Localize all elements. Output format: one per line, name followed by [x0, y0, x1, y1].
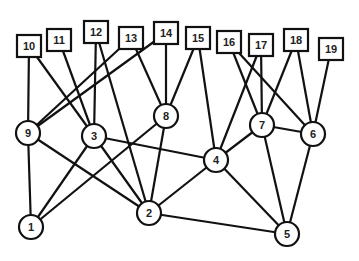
edge-3-1 — [31, 136, 94, 227]
node-label: 10 — [23, 40, 35, 52]
circle-node-5: 5 — [275, 222, 299, 246]
node-label: 13 — [125, 32, 137, 44]
edge-13-9 — [28, 38, 131, 133]
edge-3-4 — [94, 136, 216, 160]
edge-2-5 — [149, 213, 287, 234]
node-label: 11 — [53, 34, 65, 46]
square-node-15: 15 — [186, 27, 210, 49]
circle-node-8: 8 — [154, 104, 178, 128]
node-label: 7 — [259, 119, 265, 131]
square-node-18: 18 — [284, 29, 308, 51]
node-label: 16 — [223, 36, 235, 48]
node-label: 9 — [25, 127, 31, 139]
node-label: 12 — [90, 26, 102, 38]
square-node-10: 10 — [17, 35, 41, 57]
graph-diagram: 10111213141516171819938764125 — [0, 0, 359, 261]
node-label: 5 — [284, 228, 290, 240]
edge-4-5 — [216, 160, 287, 234]
square-node-13: 13 — [119, 27, 143, 49]
edge-6-5 — [287, 134, 313, 234]
square-node-11: 11 — [47, 29, 71, 51]
circle-node-1: 1 — [19, 215, 43, 239]
node-label: 17 — [255, 39, 267, 51]
circle-node-2: 2 — [137, 201, 161, 225]
node-label: 15 — [192, 32, 204, 44]
circle-node-6: 6 — [301, 122, 325, 146]
node-label: 1 — [28, 221, 34, 233]
square-node-16: 16 — [217, 31, 241, 53]
edge-15-4 — [198, 38, 216, 160]
node-label: 8 — [163, 110, 169, 122]
square-node-19: 19 — [319, 38, 343, 60]
circle-node-9: 9 — [16, 121, 40, 145]
edge-8-2 — [149, 116, 166, 213]
edges-layer — [28, 32, 331, 234]
circle-node-7: 7 — [250, 113, 274, 137]
edge-3-2 — [94, 136, 149, 213]
node-label: 2 — [146, 207, 152, 219]
square-node-17: 17 — [249, 34, 273, 56]
node-label: 18 — [290, 34, 302, 46]
circle-node-4: 4 — [204, 148, 228, 172]
node-label: 14 — [160, 27, 173, 39]
edge-7-5 — [262, 125, 287, 234]
circle-node-3: 3 — [82, 124, 106, 148]
square-node-14: 14 — [154, 22, 178, 44]
edge-9-1 — [28, 133, 31, 227]
node-label: 4 — [213, 154, 220, 166]
node-label: 3 — [91, 130, 97, 142]
node-label: 6 — [310, 128, 316, 140]
square-node-12: 12 — [84, 21, 108, 43]
node-label: 19 — [325, 43, 337, 55]
edge-18-6 — [296, 40, 313, 134]
